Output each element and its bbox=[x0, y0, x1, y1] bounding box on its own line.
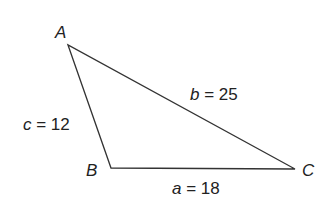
vertex-label-a: A bbox=[55, 24, 66, 41]
triangle-diagram: A B C c = 12 b = 25 a = 18 bbox=[0, 0, 324, 203]
side-label-b: b = 25 bbox=[190, 86, 238, 103]
vertex-label-b: B bbox=[86, 162, 97, 179]
vertex-label-c: C bbox=[302, 162, 314, 179]
side-label-c: c = 12 bbox=[23, 116, 70, 133]
side-label-a: a = 18 bbox=[172, 180, 220, 197]
triangle-shape bbox=[0, 0, 324, 203]
